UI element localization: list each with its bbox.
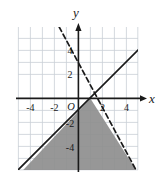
x-tick-label--2: -2 (50, 102, 58, 113)
x-axis-label: x (148, 91, 155, 106)
y-tick-label--4: -4 (66, 142, 74, 153)
y-axis-label: y (71, 5, 79, 20)
y-tick-label-2: 2 (68, 69, 73, 80)
coordinate-plane-svg: x y O -4 -2 2 4 4 2 -2 -4 (0, 0, 165, 173)
y-tick-label-4: 4 (68, 45, 73, 56)
x-axis-arrow (140, 95, 147, 101)
x-tick-label-2: 2 (100, 102, 105, 113)
y-tick-label--2: -2 (66, 118, 74, 129)
x-tick-label--4: -4 (26, 102, 34, 113)
x-tick-label-4: 4 (124, 102, 129, 113)
coordinate-graph-figure: x y O -4 -2 2 4 4 2 -2 -4 (0, 0, 165, 173)
origin-label: O (67, 101, 75, 112)
